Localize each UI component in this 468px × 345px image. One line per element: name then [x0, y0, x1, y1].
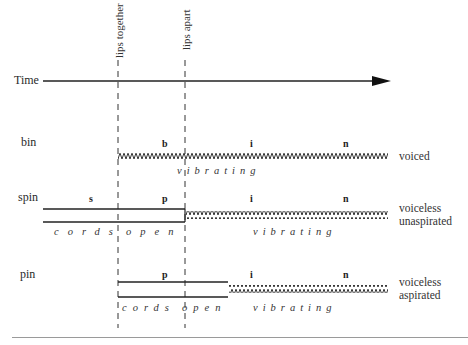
word-spin: spin [18, 190, 38, 205]
word-pin: pin [20, 267, 35, 282]
segment-s: s [89, 193, 93, 204]
state-vibrating: vibrating [177, 165, 261, 176]
spin-vibration-wave [186, 211, 388, 219]
bottom-divider [12, 337, 468, 338]
segment-i: i [250, 138, 253, 149]
segment-n: n [343, 269, 349, 280]
state-vibrating: vibrating [253, 226, 337, 237]
segment-b: b [162, 138, 168, 149]
lips-apart-label: lips apart [180, 9, 192, 50]
desc-line: voiceless [399, 276, 441, 289]
state-vibrating: vibrating [253, 302, 337, 313]
pin-vibration-wave [229, 285, 388, 293]
segment-i: i [250, 193, 253, 204]
segment-n: n [343, 138, 349, 149]
desc-voiced: voiced [399, 150, 430, 163]
desc-voiceless-aspirated: voiceless aspirated [399, 276, 441, 302]
desc-voiceless-unaspirated: voiceless unaspirated [399, 202, 452, 228]
state-open: open [126, 226, 182, 237]
segment-n: n [343, 193, 349, 204]
state-open: open [182, 302, 226, 313]
word-bin: bin [21, 135, 36, 150]
state-cords: cords [122, 302, 175, 313]
segment-p: p [162, 269, 168, 280]
state-cords: cords [54, 226, 122, 237]
desc-line: voiceless [399, 202, 452, 215]
segment-i: i [250, 269, 253, 280]
lips-together-label: lips together [113, 3, 125, 58]
bin-vibration-wave [118, 153, 388, 161]
desc-line: voiced [399, 150, 430, 163]
time-label: Time [14, 73, 39, 88]
desc-line: unaspirated [399, 215, 452, 228]
time-arrowhead-icon [372, 76, 391, 86]
desc-line: aspirated [399, 289, 441, 302]
segment-p: p [162, 193, 168, 204]
